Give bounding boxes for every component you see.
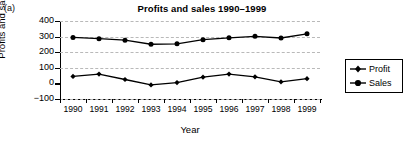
y-tick-label: 400 [14, 15, 54, 25]
legend-item-sales[interactable]: Sales [349, 76, 399, 90]
data-point-sales [149, 42, 154, 47]
plot-area [60, 21, 320, 99]
y-tick-label: 0 [14, 77, 54, 87]
data-point-profit [252, 74, 257, 79]
data-point-profit [226, 71, 231, 76]
data-point-sales [201, 37, 206, 42]
data-point-sales [175, 41, 180, 46]
data-point-sales [97, 36, 102, 41]
y-axis-label: Profits and sales [0, 0, 7, 79]
x-tick-label: 1994 [164, 104, 190, 114]
x-tick-label: 1992 [112, 104, 138, 114]
data-point-sales [279, 36, 284, 41]
x-tick-label: 1990 [60, 104, 86, 114]
x-tick-label: 1998 [268, 104, 294, 114]
y-tick-label: 300 [14, 31, 54, 41]
data-point-profit [148, 82, 153, 87]
data-point-sales [71, 35, 76, 40]
x-tick-label: 1993 [138, 104, 164, 114]
data-point-sales [305, 31, 310, 36]
x-tick-mark [320, 99, 321, 103]
chart-legend: Profit Sales [345, 59, 403, 93]
series-lines [60, 21, 322, 101]
x-tick-mark [190, 99, 191, 103]
y-tick-label: 200 [14, 46, 54, 56]
data-point-sales [253, 34, 258, 39]
profit-marker-icon [349, 63, 367, 75]
data-point-profit [278, 79, 283, 84]
chart-title: Profits and sales 1990–1999 [92, 3, 312, 14]
x-tick-label: 1996 [216, 104, 242, 114]
data-point-profit [70, 74, 75, 79]
series-line-profit [73, 74, 307, 85]
x-tick-mark [268, 99, 269, 103]
chart-figure: (a) Profits and sales 1990–1999 40030020… [0, 0, 407, 142]
x-tick-mark [86, 99, 87, 103]
legend-label-profit: Profit [367, 64, 390, 74]
x-tick-label: 1999 [294, 104, 320, 114]
sales-marker-icon [349, 77, 367, 89]
y-tick-mark [55, 83, 60, 84]
data-point-profit [200, 75, 205, 80]
x-tick-mark [216, 99, 217, 103]
x-tick-label: 1991 [86, 104, 112, 114]
y-tick-mark [55, 21, 60, 22]
y-tick-mark [55, 37, 60, 38]
x-tick-mark [164, 99, 165, 103]
series-line-sales [73, 34, 307, 44]
data-point-profit [122, 77, 127, 82]
data-point-sales [227, 35, 232, 40]
x-tick-mark [60, 99, 61, 103]
x-tick-label: 1995 [190, 104, 216, 114]
data-point-profit [96, 71, 101, 76]
legend-label-sales: Sales [367, 78, 392, 88]
y-tick-mark [55, 52, 60, 53]
x-tick-mark [138, 99, 139, 103]
data-point-profit [304, 76, 309, 81]
x-axis-label: Year [130, 124, 250, 135]
x-tick-mark [112, 99, 113, 103]
y-tick-label: −100 [14, 93, 54, 103]
legend-item-profit[interactable]: Profit [349, 62, 399, 76]
x-tick-mark [242, 99, 243, 103]
y-tick-label: 100 [14, 62, 54, 72]
x-tick-mark [294, 99, 295, 103]
x-tick-label: 1997 [242, 104, 268, 114]
data-point-sales [123, 38, 128, 43]
y-tick-mark [55, 68, 60, 69]
data-point-profit [174, 80, 179, 85]
